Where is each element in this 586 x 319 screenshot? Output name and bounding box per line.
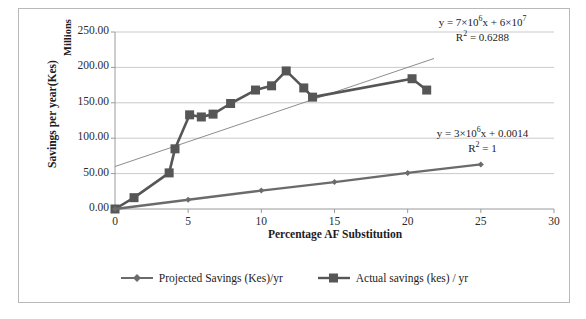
- y-tick-label: 0.00: [53, 201, 109, 213]
- data-point-marker: [408, 74, 417, 83]
- y-tick-label: 100.00: [53, 130, 109, 142]
- trendline: [115, 58, 434, 166]
- x-tick-label: 25: [466, 215, 496, 227]
- data-point-marker: [258, 188, 264, 194]
- legend-item-projected-savings[interactable]: Projected Savings (Kes)/yr: [120, 272, 283, 284]
- series-actual-savings: [111, 66, 432, 213]
- equation-text-projected: y = 3×106x + 0.0014: [395, 125, 570, 140]
- data-point-marker: [267, 81, 276, 90]
- trendline-equation-actual: y = 7×106x + 6×107 R2 = 0.6288: [395, 14, 570, 45]
- data-point-marker: [209, 110, 218, 119]
- x-tick-label: 0: [100, 215, 130, 227]
- y-tick-label: 50.00: [53, 166, 109, 178]
- trendline-actual: [115, 58, 434, 166]
- y-tick-label: 200.00: [53, 59, 109, 71]
- data-point-marker: [478, 161, 484, 167]
- data-point-marker: [422, 86, 431, 95]
- y-tick-label: 250.00: [53, 24, 109, 36]
- data-point-marker: [282, 66, 291, 75]
- legend-marker-square-icon: [317, 272, 351, 284]
- x-tick-label: 10: [246, 215, 276, 227]
- x-tick-marks: [115, 209, 554, 213]
- data-point-marker: [185, 197, 191, 203]
- x-axis-title: Percentage AF Substitution: [115, 228, 555, 240]
- data-point-marker: [405, 170, 411, 176]
- x-tick-label: 30: [539, 215, 569, 227]
- r-squared-actual: R2 = 0.6288: [395, 29, 570, 44]
- data-point-marker: [185, 110, 194, 119]
- trendline-equation-projected: y = 3×106x + 0.0014 R2 = 1: [395, 125, 570, 156]
- data-point-marker: [165, 168, 174, 177]
- chart-figure: Savings per year(Kes) Millions Percentag…: [0, 0, 586, 319]
- data-point-marker: [251, 86, 260, 95]
- data-point-marker: [170, 144, 179, 153]
- data-point-marker: [197, 112, 206, 121]
- data-point-marker: [226, 99, 235, 108]
- legend-item-actual-savings[interactable]: Actual savings (kes) / yr: [317, 272, 468, 284]
- r-squared-projected: R2 = 1: [395, 140, 570, 155]
- data-point-marker: [332, 179, 338, 185]
- x-tick-label: 15: [320, 215, 350, 227]
- x-tick-label: 5: [173, 215, 203, 227]
- legend-label-actual-savings: Actual savings (kes) / yr: [356, 272, 468, 284]
- equation-text-actual: y = 7×106x + 6×107: [395, 14, 570, 29]
- data-point-marker: [299, 83, 308, 92]
- legend-label-projected-savings: Projected Savings (Kes)/yr: [159, 272, 283, 284]
- y-tick-label: 150.00: [53, 95, 109, 107]
- y-tick-marks: [111, 32, 115, 209]
- legend-marker-diamond-icon: [120, 272, 154, 284]
- data-point-marker: [308, 93, 317, 102]
- data-point-marker: [130, 193, 139, 202]
- chart-legend: Projected Savings (Kes)/yr Actual saving…: [18, 272, 570, 284]
- x-tick-label: 20: [393, 215, 423, 227]
